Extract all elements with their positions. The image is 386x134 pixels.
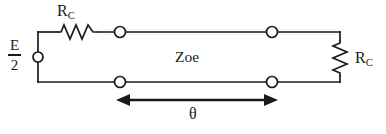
- arrowhead-left: [116, 94, 130, 106]
- source-voltage-label: E 2: [8, 38, 21, 73]
- port-top-left-circle: [115, 27, 126, 38]
- line-impedance-label: Zoe: [175, 49, 199, 65]
- port-top-right-circle: [267, 27, 278, 38]
- resistor-right-symbol: [333, 40, 347, 76]
- source-denominator: 2: [8, 57, 21, 73]
- circuit-diagram-figure: E 2 RC RC Zoe θ: [0, 0, 386, 134]
- resistor-top-label-base: R: [57, 2, 68, 19]
- source-numerator: E: [8, 38, 21, 54]
- arrowhead-right: [264, 94, 278, 106]
- resistor-top-label: RC: [57, 3, 75, 21]
- resistor-top-label-subscript: C: [68, 10, 75, 21]
- resistor-right-label-subscript: C: [366, 57, 373, 68]
- port-bottom-right-circle: [267, 77, 278, 88]
- resistor-right-label: RC: [355, 50, 373, 68]
- theta-dimension-arrow: [116, 94, 278, 106]
- resistor-top-symbol: [58, 25, 98, 39]
- electrical-length-label: θ: [189, 106, 197, 122]
- resistor-right-label-base: R: [355, 49, 366, 66]
- fraction-bar: [8, 54, 21, 56]
- source-terminal-circle: [33, 52, 43, 62]
- port-bottom-left-circle: [115, 77, 126, 88]
